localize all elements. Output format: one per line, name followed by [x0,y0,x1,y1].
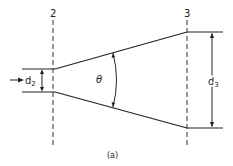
section-3-label: 3 [184,8,190,19]
diffuser-diagram: 2 3 d2 θ d3 (a) [0,0,233,166]
d2-arrow-top [40,70,44,75]
theta-label: θ [96,74,102,85]
caption: (a) [107,151,118,160]
d2-label: d2 [25,75,36,88]
flow-arrow-head [18,78,24,83]
section-2-label: 2 [50,8,56,19]
diverging-lower-wall [55,92,187,128]
theta-arc [113,53,117,107]
diverging-upper-wall [55,32,187,69]
d3-arrow-bottom [210,122,214,128]
d3-arrow-top [210,33,214,39]
d3-label: d3 [208,76,219,89]
d2-arrow-bottom [40,87,44,92]
